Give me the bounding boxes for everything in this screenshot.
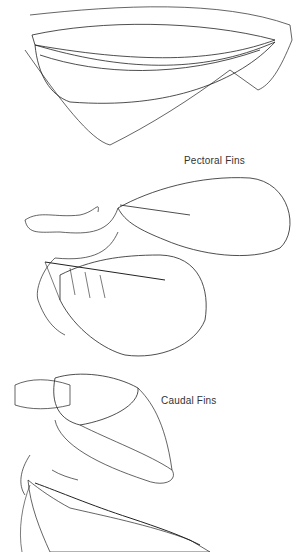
caudal-fin-lower [20, 455, 210, 552]
pectoral-fins-label: Pectoral Fins [184, 155, 245, 166]
caudal-fin-upper [15, 374, 173, 483]
pectoral-fin-lower [37, 232, 206, 356]
fin-illustration [0, 0, 300, 552]
caudal-fins-label: Caudal Fins [161, 395, 217, 406]
pectoral-fin-upper [25, 178, 290, 256]
dorsal-fin-top [25, 7, 292, 145]
